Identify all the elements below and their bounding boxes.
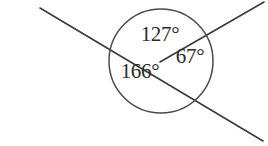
angle-label-left: 166° <box>121 61 160 82</box>
angle-label-right: 67° <box>176 46 205 67</box>
geometry-diagram: 127° 166° 67° <box>0 0 268 146</box>
angle-label-top: 127° <box>141 24 180 45</box>
